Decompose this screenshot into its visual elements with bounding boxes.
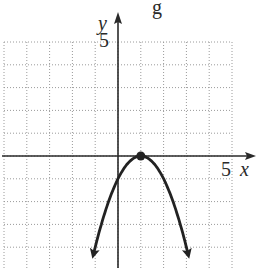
axes (2, 12, 256, 268)
parabola-path (94, 156, 187, 251)
graph-canvas: g y 5 5 x (0, 0, 259, 268)
x-axis-label: x (239, 158, 249, 180)
y-tick-label-5: 5 (99, 29, 109, 51)
vertex-point (136, 152, 145, 161)
cropped-title-fragment: g (152, 0, 162, 19)
parabola-curve (90, 152, 192, 259)
x-tick-label-5: 5 (221, 158, 231, 180)
